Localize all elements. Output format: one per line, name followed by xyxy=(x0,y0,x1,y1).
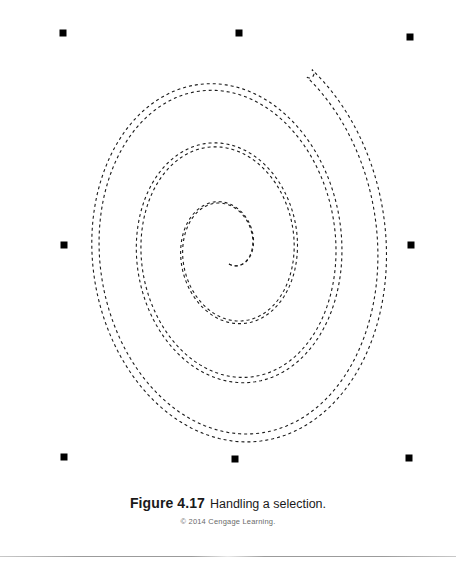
spiral-inner-outline xyxy=(99,77,378,434)
handle-bottom-center[interactable] xyxy=(232,456,239,463)
figure-title-text: Handling a selection. xyxy=(210,497,326,511)
spiral-shape[interactable] xyxy=(92,70,387,442)
selection-handles[interactable] xyxy=(60,30,415,463)
figure-caption: Figure 4.17Handling a selection. xyxy=(0,495,456,512)
caption-block: Figure 4.17Handling a selection. © 2014 … xyxy=(0,495,456,526)
handle-top-left[interactable] xyxy=(60,30,67,37)
handle-bottom-right[interactable] xyxy=(406,455,413,462)
figure-drawing-canvas[interactable] xyxy=(0,0,456,480)
handle-bottom-left[interactable] xyxy=(61,454,68,461)
spiral-outer-outline xyxy=(92,70,387,442)
handle-top-right[interactable] xyxy=(407,34,414,41)
page-bottom-rule xyxy=(0,556,456,557)
spiral-selection-svg[interactable] xyxy=(0,0,456,480)
handle-middle-left[interactable] xyxy=(61,242,68,249)
handle-middle-right[interactable] xyxy=(408,242,415,249)
figure-number-label: Figure 4.17 xyxy=(130,495,205,511)
spiral-end-cap xyxy=(307,70,314,78)
copyright-notice: © 2014 Cengage Learning. xyxy=(0,517,456,526)
handle-top-center[interactable] xyxy=(236,30,243,37)
figure-page: Figure 4.17Handling a selection. © 2014 … xyxy=(0,0,456,580)
